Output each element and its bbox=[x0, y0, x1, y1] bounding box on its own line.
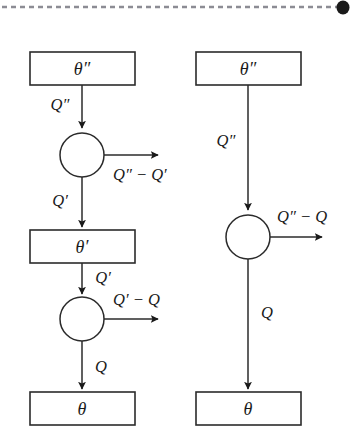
left-lower-work-label: Q′ − Q bbox=[113, 290, 160, 309]
diagram-canvas: θ″ Q″ Q″ − Q′ Q′ θ′ Q′ Q′ − Q Q θ θ″ Q″ … bbox=[0, 0, 355, 432]
left-reservoir-top-label: θ″ bbox=[74, 59, 91, 79]
thermodynamic-cascade-figure: θ″ Q″ Q″ − Q′ Q′ θ′ Q′ Q′ − Q Q θ θ″ Q″ … bbox=[0, 0, 355, 432]
left-upper-engine-circle bbox=[60, 133, 104, 177]
left-diagram-group bbox=[30, 52, 158, 425]
right-work-label: Q″ − Q bbox=[277, 207, 327, 226]
left-lower-engine-circle bbox=[60, 297, 104, 341]
right-diagram-group bbox=[196, 52, 322, 425]
left-reservoir-bottom-label: θ bbox=[78, 399, 87, 419]
right-engine-circle bbox=[226, 215, 270, 259]
left-reservoir-middle-label: θ′ bbox=[76, 237, 90, 257]
left-lower-input-label: Q′ bbox=[95, 268, 111, 287]
left-upper-output-label: Q′ bbox=[52, 191, 68, 210]
left-lower-output-label: Q bbox=[95, 357, 107, 376]
left-upper-work-label: Q″ − Q′ bbox=[113, 165, 167, 184]
right-input-label: Q″ bbox=[217, 131, 237, 150]
top-dashed-rule bbox=[2, 1, 350, 15]
right-reservoir-bottom-label: θ bbox=[244, 399, 253, 419]
left-upper-input-label: Q″ bbox=[51, 95, 71, 114]
right-reservoir-top-label: θ″ bbox=[240, 59, 257, 79]
right-output-label: Q bbox=[261, 303, 273, 322]
